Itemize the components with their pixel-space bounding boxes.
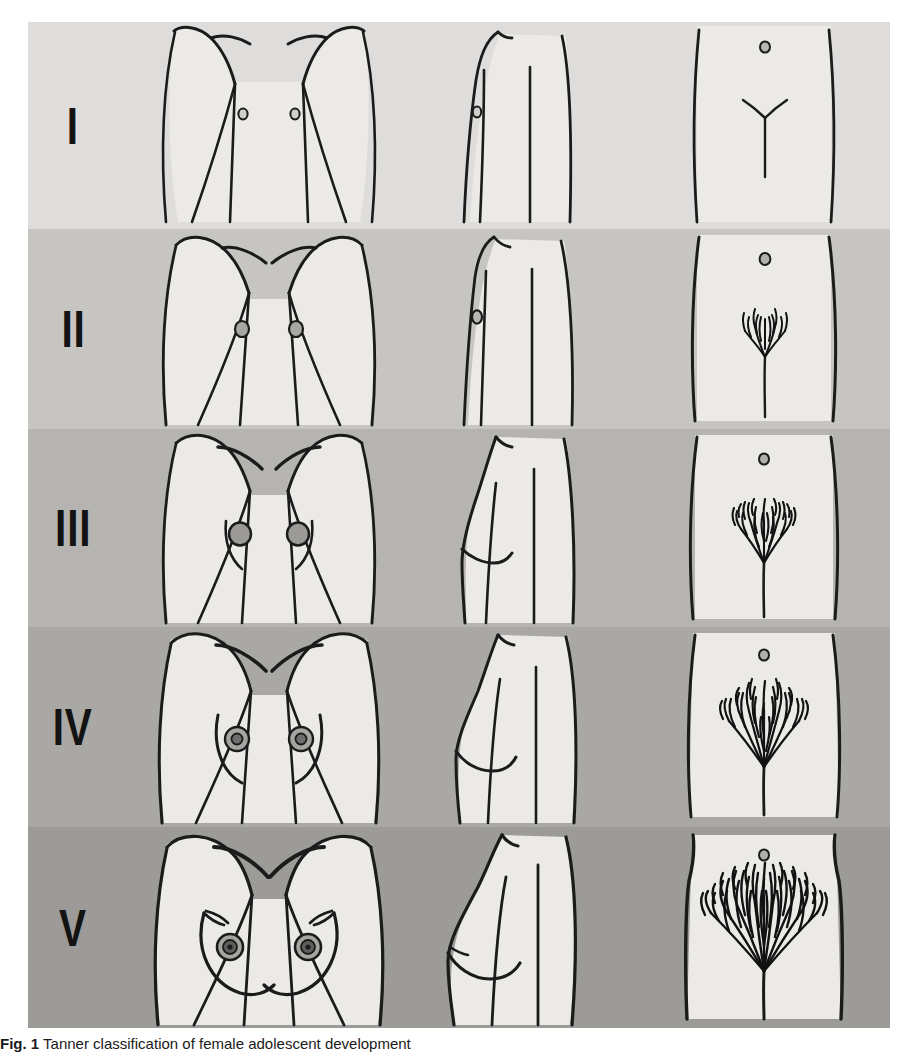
frontal-panel-i bbox=[118, 22, 420, 229]
stage-numeral-iii: III bbox=[55, 502, 91, 554]
stage-row-i: I bbox=[28, 22, 890, 229]
frontal-panel-iv bbox=[118, 627, 420, 827]
pubic-panel-iii bbox=[635, 429, 890, 627]
stage-numeral-cell-iii: III bbox=[28, 429, 118, 627]
frontal-panel-iii bbox=[118, 429, 420, 627]
lateral-panel-v bbox=[420, 827, 663, 1028]
pubic-panel-i bbox=[635, 22, 890, 229]
caption-label: Fig. 1 bbox=[0, 1035, 39, 1052]
figure-page: I bbox=[0, 0, 919, 1056]
stage-row-ii: II bbox=[28, 229, 890, 429]
pubic-panel-ii bbox=[635, 229, 890, 429]
stage-numeral-cell-ii: II bbox=[28, 229, 118, 429]
stage-numeral-i: I bbox=[67, 100, 79, 152]
lateral-panel-i bbox=[420, 22, 663, 229]
tanner-stage-plate: I bbox=[28, 22, 890, 1028]
frontal-panel-ii bbox=[118, 229, 420, 429]
stage-numeral-v: V bbox=[59, 902, 87, 954]
lateral-panel-iii bbox=[420, 429, 663, 627]
stage-numeral-cell-v: V bbox=[28, 827, 118, 1028]
figure-caption: Fig. 1 Tanner classification of female a… bbox=[0, 1034, 919, 1056]
stage-row-v: V bbox=[28, 827, 890, 1028]
pubic-panel-v bbox=[635, 827, 890, 1028]
stage-row-iv: IV bbox=[28, 627, 890, 827]
pubic-panel-iv bbox=[635, 627, 890, 827]
stage-numeral-iv: IV bbox=[53, 701, 93, 753]
stage-numeral-cell-iv: IV bbox=[28, 627, 118, 827]
caption-text: Tanner classification of female adolesce… bbox=[43, 1035, 411, 1052]
stage-numeral-cell-i: I bbox=[28, 22, 118, 229]
stage-numeral-ii: II bbox=[61, 303, 85, 355]
stage-row-iii: III bbox=[28, 429, 890, 627]
lateral-panel-ii bbox=[420, 229, 663, 429]
lateral-panel-iv bbox=[420, 627, 663, 827]
frontal-panel-v bbox=[118, 827, 420, 1028]
